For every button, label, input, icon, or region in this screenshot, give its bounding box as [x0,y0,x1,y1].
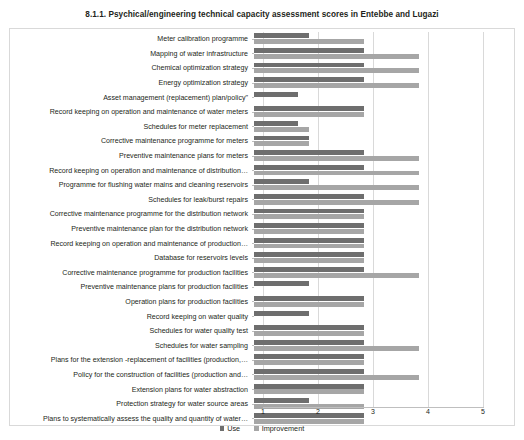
chart-row: Chemical optimization strategy [0,61,524,76]
category-label: Preventive maintenance plans for meters [0,152,254,160]
bar-group [254,222,484,237]
chart-title: 8.1.1. Psychical/engineering technical c… [0,10,524,19]
bar-group [254,47,484,62]
bar-use [254,121,298,126]
category-label: Chemical optimization strategy [0,64,254,72]
category-label: Record keeping on operation and maintena… [0,108,254,116]
chart-row: Programme for flushing water mains and c… [0,178,524,193]
category-label: Operation plans for production facilitie… [0,298,254,306]
category-label: Record keeping on operation and maintena… [0,240,254,248]
category-label: Database for reservoirs levels [0,254,254,262]
legend-swatch-icon [220,426,225,431]
bar-improvement [254,141,309,146]
bar-use [254,150,364,155]
bar-group [254,76,484,91]
bar-group [254,178,484,193]
bar-group [254,382,484,397]
legend-label: Improvement [262,424,305,433]
chart-row: Corrective maintenance programme for the… [0,207,524,222]
category-label: Plans for the extension -replacement of … [0,356,254,364]
axis-tickmark [252,287,254,288]
legend-swatch-icon [254,426,259,431]
bar-group [254,149,484,164]
bar-group [254,295,484,310]
x-tick-label: 4 [426,408,430,415]
category-label: Schedules for water quality test [0,327,254,335]
bar-improvement [254,171,419,176]
bar-use [254,106,364,111]
bar-group [254,266,484,281]
bar-group [254,163,484,178]
category-label: Asset management (replacement) plan/poli… [0,94,254,102]
bar-group [254,353,484,368]
bar-use [254,165,364,170]
chart-row: Meter calibration programme [0,32,524,47]
bar-group [254,105,484,120]
bar-improvement [254,185,419,190]
bar-improvement [254,214,364,219]
bar-use [254,238,364,243]
bar-use [254,311,309,316]
chart-legend: UseImprovement [0,424,524,433]
bar-improvement [254,229,364,234]
bar-use [254,325,364,330]
category-label: Mapping of water infrastructure [0,50,254,58]
bar-improvement [254,346,419,351]
category-label: Meter calibration programme [0,35,254,43]
chart-row: Record keeping on operation and maintena… [0,105,524,120]
category-label: Extension plans for water abstraction [0,386,254,394]
bar-use [254,179,309,184]
bar-use [254,340,364,345]
bar-use [254,369,364,374]
axis-tickmark [252,97,254,98]
bar-group [254,251,484,266]
chart-row: Schedules for water quality test [0,324,524,339]
category-label: Schedules for leak/burst repairs [0,196,254,204]
chart-row: Asset management (replacement) plan/poli… [0,90,524,105]
x-tick-label: 5 [481,408,485,415]
chart-row: Policy for the construction of facilitie… [0,368,524,383]
bar-improvement [254,112,364,117]
bar-improvement [254,54,419,59]
bar-improvement [254,200,419,205]
bar-improvement [254,258,364,263]
bar-group [254,193,484,208]
bar-group [254,236,484,251]
bar-group [254,338,484,353]
chart-row: Extension plans for water abstraction [0,382,524,397]
bar-improvement [254,331,364,336]
chart-row: Preventive maintenance plans for meters [0,149,524,164]
chart-row: Plans for the extension -replacement of … [0,353,524,368]
legend-label: Use [227,424,240,433]
chart-row: Schedules for water sampling [0,338,524,353]
bar-use [254,398,309,403]
chart-row: Record keeping on operation and maintena… [0,236,524,251]
category-label: Policy for the construction of facilitie… [0,371,254,379]
category-label: Schedules for water sampling [0,342,254,350]
bar-group [254,368,484,383]
legend-item-use[interactable]: Use [220,424,240,433]
chart-row: Operation plans for production facilitie… [0,295,524,310]
bar-improvement [254,39,364,44]
chart-row: Preventive maintenance plans for product… [0,280,524,295]
chart-row: Record keeping on operation and maintena… [0,163,524,178]
bar-use [254,209,364,214]
bar-group [254,309,484,324]
category-label: Preventive maintenance plans for product… [0,283,254,291]
chart-row: Corrective maintenance programme for pro… [0,266,524,281]
chart-row: Corrective maintenance programme for met… [0,134,524,149]
category-label: Record keeping on operation and maintena… [0,167,254,175]
axis-tickmark [252,316,254,317]
bar-improvement [254,273,419,278]
chart-page: 8.1.1. Psychical/engineering technical c… [0,0,524,440]
legend-item-improvement[interactable]: Improvement [254,424,304,433]
bar-group [254,32,484,47]
category-label: Programme for flushing water mains and c… [0,181,254,189]
x-axis-ticks: 12345 [0,408,524,420]
chart-row: Database for reservoirs levels [0,251,524,266]
x-tick-label: 1 [261,408,265,415]
bar-group [254,280,484,295]
bar-use [254,223,364,228]
bar-group [254,134,484,149]
category-label: Protection strategy for water source are… [0,400,254,408]
